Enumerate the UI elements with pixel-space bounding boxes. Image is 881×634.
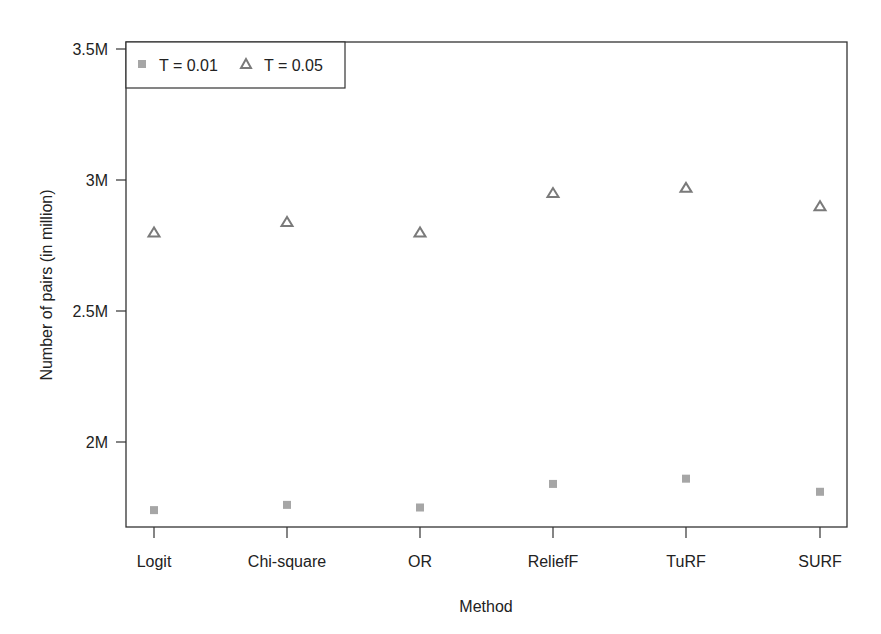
square-marker-icon [150,506,158,514]
triangle-marker-icon [681,183,692,192]
y-axis-label: Number of pairs (in million) [38,189,55,380]
y-tick-label: 2M [86,434,108,451]
triangle-marker-icon [282,217,293,226]
triangle-marker-icon [815,201,826,210]
plot-area [126,42,847,527]
x-axis-label: Method [459,598,512,615]
legend-label-t001: T = 0.01 [159,57,218,74]
x-axis: LogitChi-squareORReliefFTuRFSURF [137,527,842,570]
square-marker-icon [549,480,557,488]
x-tick-label: TuRF [666,553,706,570]
legend-square-icon [138,60,146,68]
legend-label-t005: T = 0.05 [264,57,323,74]
y-axis: 2M2.5M3M3.5M [72,41,126,451]
y-tick-label: 3M [86,172,108,189]
square-marker-icon [816,488,824,496]
x-tick-label: Chi-square [248,553,326,570]
y-tick-label: 3.5M [72,41,108,58]
x-tick-label: SURF [798,553,842,570]
triangle-marker-icon [415,227,426,236]
square-marker-icon [283,501,291,509]
x-tick-label: OR [408,553,432,570]
legend: T = 0.01 T = 0.05 [126,42,345,88]
triangle-marker-icon [149,227,160,236]
scatter-chart: 2M2.5M3M3.5M LogitChi-squareORReliefFTuR… [0,0,881,634]
y-tick-label: 2.5M [72,303,108,320]
square-marker-icon [682,475,690,483]
x-tick-label: ReliefF [528,553,579,570]
data-points [149,183,826,514]
x-tick-label: Logit [137,553,172,570]
square-marker-icon [416,504,424,512]
plot-border [126,42,847,527]
triangle-marker-icon [548,188,559,197]
